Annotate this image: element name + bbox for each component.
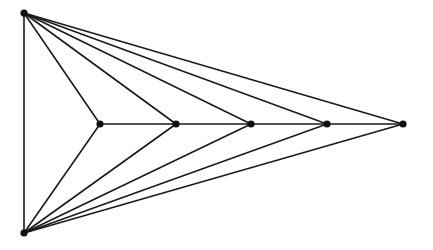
node-P4 bbox=[323, 120, 330, 127]
edge-T-P1 bbox=[24, 13, 100, 124]
edge-T-P4 bbox=[24, 13, 327, 124]
node-P3 bbox=[247, 120, 254, 127]
edge-T-P2 bbox=[24, 13, 176, 124]
edge-T-P3 bbox=[24, 13, 251, 124]
node-B bbox=[20, 229, 27, 236]
edge-group bbox=[24, 13, 403, 233]
edge-B-P1 bbox=[24, 124, 100, 233]
graph-diagram bbox=[0, 0, 433, 250]
edge-B-P3 bbox=[24, 124, 251, 233]
edge-T-P5 bbox=[24, 13, 403, 124]
node-P2 bbox=[172, 120, 179, 127]
edge-B-P4 bbox=[24, 124, 327, 233]
node-T bbox=[20, 9, 27, 16]
node-P5 bbox=[399, 120, 406, 127]
node-group bbox=[20, 9, 406, 236]
edge-B-P5 bbox=[24, 124, 403, 233]
node-P1 bbox=[96, 120, 103, 127]
edge-B-P2 bbox=[24, 124, 176, 233]
